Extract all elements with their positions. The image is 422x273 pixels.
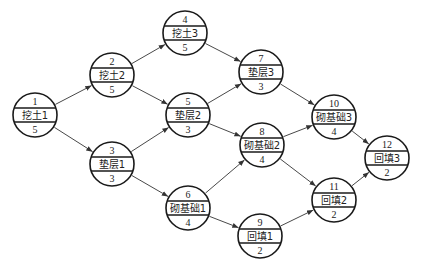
activity-node-11: 11回填22 bbox=[312, 178, 356, 222]
node-number: 5 bbox=[186, 96, 191, 107]
node-duration: 4 bbox=[260, 154, 265, 165]
node-activity-name: 垫层1 bbox=[99, 158, 125, 170]
arrow-1-to-2 bbox=[55, 86, 91, 105]
activity-node-1: 1挖土15 bbox=[13, 93, 57, 137]
activity-node-5: 5垫层23 bbox=[166, 93, 210, 137]
activity-node-7: 7垫层33 bbox=[239, 50, 283, 94]
node-number: 12 bbox=[382, 139, 392, 150]
node-activity-name: 挖土1 bbox=[22, 109, 48, 121]
arrow-8-to-11 bbox=[280, 159, 315, 186]
arrow-5-to-8 bbox=[209, 124, 240, 137]
node-number: 6 bbox=[186, 189, 191, 200]
node-duration: 4 bbox=[332, 126, 337, 137]
network-diagram: 1挖土152挖土253垫层134挖土355垫层236砌基础147垫层338砌基础… bbox=[0, 0, 422, 273]
node-number: 7 bbox=[259, 53, 264, 64]
arrow-6-to-9 bbox=[209, 216, 238, 227]
activity-node-6: 6砌基础14 bbox=[166, 186, 210, 230]
node-duration: 4 bbox=[186, 217, 191, 228]
activity-node-2: 2挖土25 bbox=[90, 53, 134, 97]
node-number: 4 bbox=[183, 14, 188, 25]
activity-node-3: 3垫层13 bbox=[90, 142, 134, 186]
node-number: 9 bbox=[258, 217, 263, 228]
arrow-8-to-10 bbox=[283, 125, 312, 136]
activity-node-12: 12回填32 bbox=[365, 136, 409, 180]
node-duration: 3 bbox=[110, 173, 115, 184]
arrow-2-to-5 bbox=[132, 86, 167, 105]
node-duration: 2 bbox=[385, 167, 390, 178]
node-number: 2 bbox=[110, 56, 115, 67]
arrow-6-to-8 bbox=[206, 160, 245, 193]
arrow-7-to-10 bbox=[281, 84, 315, 105]
node-duration: 3 bbox=[259, 81, 264, 92]
node-duration: 5 bbox=[183, 42, 188, 53]
node-number: 1 bbox=[33, 96, 38, 107]
node-duration: 3 bbox=[186, 124, 191, 135]
node-duration: 2 bbox=[258, 245, 263, 256]
node-duration: 5 bbox=[110, 84, 115, 95]
activity-node-10: 10砌基础34 bbox=[312, 95, 356, 139]
node-duration: 2 bbox=[332, 209, 337, 220]
arrow-9-to-11 bbox=[281, 210, 314, 226]
node-activity-name: 回填3 bbox=[374, 152, 400, 164]
node-activity-name: 垫层3 bbox=[248, 66, 274, 78]
arrow-3-to-6 bbox=[132, 176, 168, 197]
activity-node-9: 9回填12 bbox=[238, 214, 282, 258]
arrow-1-to-3 bbox=[54, 127, 92, 151]
arrow-2-to-4 bbox=[132, 44, 165, 63]
nodes-layer: 1挖土152挖土253垫层134挖土355垫层236砌基础147垫层338砌基础… bbox=[13, 11, 409, 258]
arrow-5-to-7 bbox=[208, 84, 241, 104]
node-activity-name: 砌基础2 bbox=[244, 139, 280, 151]
node-activity-name: 回填1 bbox=[247, 230, 273, 242]
node-duration: 5 bbox=[33, 124, 38, 135]
node-activity-name: 砌基础1 bbox=[170, 202, 206, 214]
node-activity-name: 回填2 bbox=[321, 194, 347, 206]
arrow-10-to-12 bbox=[352, 131, 369, 144]
node-number: 8 bbox=[260, 126, 265, 137]
node-activity-name: 挖土2 bbox=[99, 69, 125, 81]
node-number: 11 bbox=[329, 181, 339, 192]
arrow-11-to-12 bbox=[352, 172, 369, 185]
activity-node-4: 4挖土35 bbox=[163, 11, 207, 55]
node-number: 10 bbox=[329, 98, 339, 109]
node-activity-name: 垫层2 bbox=[175, 109, 201, 121]
arrow-3-to-5 bbox=[131, 127, 168, 151]
node-activity-name: 砌基础3 bbox=[316, 111, 352, 123]
activity-node-8: 8砌基础24 bbox=[240, 123, 284, 167]
arrow-4-to-7 bbox=[205, 44, 240, 62]
node-number: 3 bbox=[110, 145, 115, 156]
node-activity-name: 挖土3 bbox=[172, 27, 198, 39]
